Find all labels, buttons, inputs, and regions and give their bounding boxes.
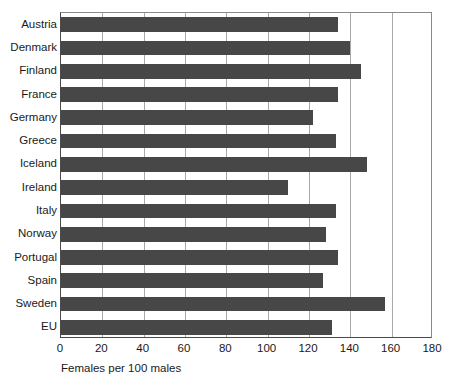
x-tick-20: 20 [95, 341, 108, 355]
x-tick-60: 60 [178, 341, 191, 355]
category-label-france: France [21, 88, 57, 100]
category-label-italy: Italy [36, 204, 57, 216]
bar-ireland [61, 180, 288, 195]
bar-eu [61, 320, 332, 335]
bar-row [61, 157, 431, 172]
category-label-sweden: Sweden [15, 297, 57, 309]
bar-denmark [61, 41, 350, 56]
category-label-iceland: Iceland [20, 157, 57, 169]
x-tick-140: 140 [340, 341, 359, 355]
x-tick-0: 0 [57, 341, 63, 355]
bar-row [61, 204, 431, 219]
bar-germany [61, 110, 313, 125]
bars-layer [61, 13, 431, 337]
category-label-finland: Finland [19, 64, 57, 76]
category-label-norway: Norway [18, 227, 57, 239]
bar-row [61, 64, 431, 79]
category-label-ireland: Ireland [22, 181, 57, 193]
bar-row [61, 227, 431, 242]
x-tick-120: 120 [298, 341, 317, 355]
bar-row [61, 134, 431, 149]
x-tick-160: 160 [381, 341, 400, 355]
category-label-germany: Germany [10, 111, 57, 123]
bar-norway [61, 227, 326, 242]
bar-row [61, 320, 431, 335]
bar-row [61, 41, 431, 56]
bar-row [61, 297, 431, 312]
x-axis-title: Females per 100 males [61, 361, 181, 375]
bar-portugal [61, 250, 338, 265]
x-tick-40: 40 [136, 341, 149, 355]
bar-greece [61, 134, 336, 149]
bar-spain [61, 273, 323, 288]
category-axis-labels: AustriaDenmarkFinlandFranceGermanyGreece… [0, 12, 57, 338]
bar-italy [61, 204, 336, 219]
category-label-spain: Spain [28, 274, 57, 286]
bar-row [61, 87, 431, 102]
bar-france [61, 87, 338, 102]
plot-area [60, 12, 432, 338]
bar-row [61, 17, 431, 32]
category-label-austria: Austria [21, 18, 57, 30]
category-label-eu: EU [41, 320, 57, 332]
category-label-portugal: Portugal [14, 251, 57, 263]
bar-sweden [61, 297, 385, 312]
bar-chart: AustriaDenmarkFinlandFranceGermanyGreece… [0, 0, 452, 387]
bar-row [61, 110, 431, 125]
x-tick-180: 180 [422, 341, 441, 355]
bar-iceland [61, 157, 367, 172]
category-label-greece: Greece [19, 134, 57, 146]
category-label-denmark: Denmark [10, 41, 57, 53]
bar-row [61, 273, 431, 288]
bar-row [61, 250, 431, 265]
bar-row [61, 180, 431, 195]
bar-austria [61, 17, 338, 32]
bar-finland [61, 64, 361, 79]
x-tick-80: 80 [219, 341, 232, 355]
x-axis-tick-labels: 020406080100120140160180 [0, 341, 452, 357]
x-tick-100: 100 [257, 341, 276, 355]
